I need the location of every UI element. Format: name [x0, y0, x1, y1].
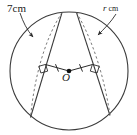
left-chord-length-label: 7cm	[7, 3, 26, 14]
figure-canvas	[0, 0, 137, 135]
geometry-figure: 7cm r cm O	[0, 0, 137, 135]
centre-point-label: O	[62, 72, 70, 83]
right-chord-unit-text: cm	[107, 4, 119, 13]
left-leader-line	[20, 13, 33, 37]
left-right-angle-marker	[39, 64, 48, 73]
right-chord-length-label: r cm	[103, 4, 118, 13]
